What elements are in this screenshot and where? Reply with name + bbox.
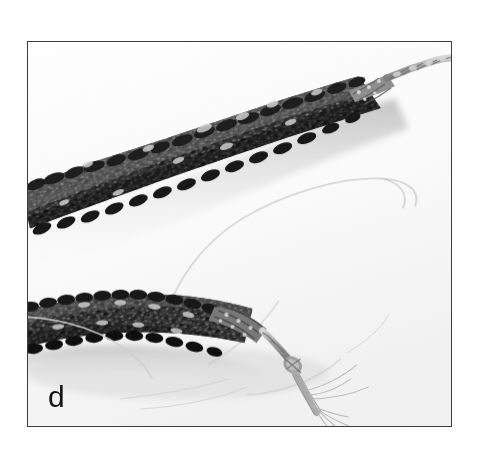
photo-frame: d [27, 41, 452, 427]
film-grain [28, 42, 451, 426]
photo-image [28, 42, 451, 426]
photograph-graphic [28, 42, 451, 426]
figure-panel: d [0, 0, 477, 452]
panel-label: d [48, 382, 65, 412]
